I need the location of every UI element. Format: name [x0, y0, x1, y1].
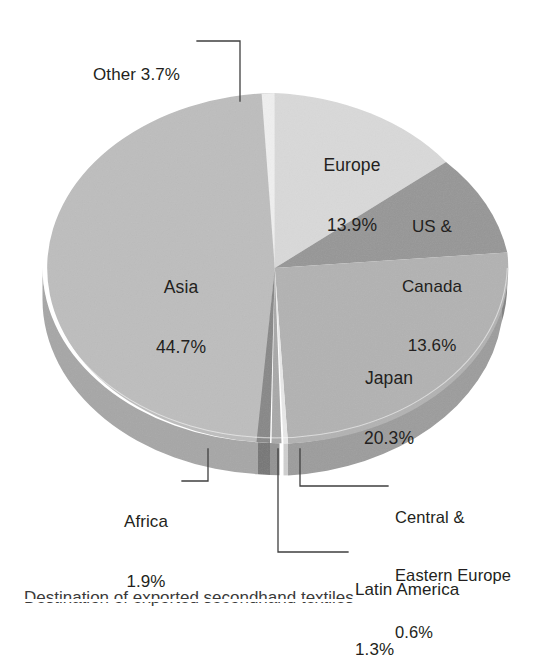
slice-label-us-canada-line1: US &	[402, 217, 462, 237]
slice-label-europe-pct: 13.9%	[323, 215, 380, 235]
top-crop-mask	[0, 0, 549, 3]
slice-label-asia-pct: 44.7%	[156, 337, 206, 357]
slice-label-cee-line1: Central &	[395, 508, 511, 527]
figure-caption: Destination of exported secondhand texti…	[24, 588, 354, 608]
slice-label-japan: Japan 20.3%	[364, 327, 414, 489]
slice-label-cee-line2: Eastern Europe	[395, 566, 511, 585]
slice-label-other-text: Other 3.7%	[93, 65, 180, 85]
slice-label-central-eastern-europe: Central & Eastern Europe 0.6%	[395, 470, 511, 659]
slice-label-cee-pct: 0.6%	[395, 623, 511, 642]
leader-line-other	[197, 41, 240, 101]
slice-label-asia-name: Asia	[156, 277, 206, 297]
slice-label-europe: Europe 13.9%	[323, 114, 380, 276]
slice-label-asia: Asia 44.7%	[156, 236, 206, 398]
slice-label-japan-name: Japan	[364, 368, 414, 388]
slice-label-us-canada-line2: Canada	[402, 277, 462, 297]
slice-label-japan-pct: 20.3%	[364, 428, 414, 448]
slice-label-africa-name: Africa	[124, 512, 168, 532]
bottom-crop-mask	[0, 599, 549, 602]
slice-label-other: Other 3.7%	[93, 26, 180, 125]
slice-label-europe-name: Europe	[323, 155, 380, 175]
